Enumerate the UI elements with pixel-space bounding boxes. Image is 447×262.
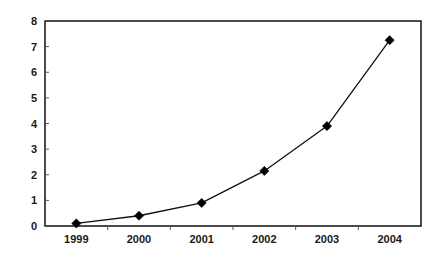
y-axis-tick-label: 0 [31,220,37,232]
y-axis-tick-label: 3 [31,143,37,155]
x-axis-tick-label: 2002 [252,233,276,245]
y-axis-tick-labels: 012345678 [31,15,38,232]
y-axis-tick-label: 6 [31,66,37,78]
x-axis-tick-label: 1999 [64,233,88,245]
chart-background [0,0,447,262]
line-chart-figure: 012345678 199920002001200220032004 [0,0,447,262]
x-axis-tick-label: 2001 [189,233,213,245]
y-axis-tick-label: 8 [31,15,37,27]
chart-canvas: 012345678 199920002001200220032004 [0,0,447,262]
y-axis-tick-label: 5 [31,92,37,104]
y-axis-tick-label: 7 [31,41,37,53]
x-axis-tick-label: 2000 [127,233,151,245]
x-axis-tick-label: 2004 [377,233,402,245]
y-axis-tick-label: 4 [31,118,38,130]
x-axis-tick-label: 2003 [315,233,339,245]
y-axis-tick-label: 1 [31,194,37,206]
y-axis-tick-label: 2 [31,169,37,181]
